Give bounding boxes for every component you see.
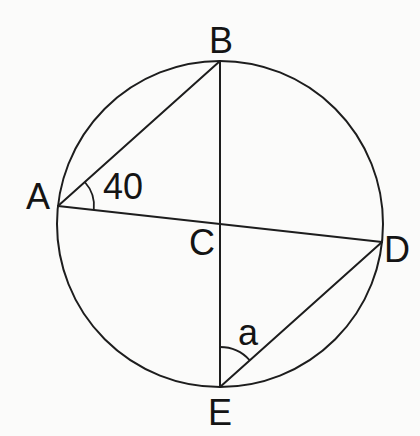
circle-diagram-svg: A B C D E 40 a: [0, 0, 420, 436]
label-point-E: E: [208, 392, 232, 433]
label-point-C: C: [189, 222, 215, 263]
label-angle-a: a: [238, 312, 259, 353]
label-point-D: D: [384, 229, 410, 270]
angle-arc-A: [85, 182, 94, 210]
geometry-figure: A B C D E 40 a: [0, 0, 420, 436]
label-point-B: B: [209, 20, 233, 61]
label-angle-40: 40: [103, 166, 143, 207]
label-point-A: A: [26, 176, 50, 217]
